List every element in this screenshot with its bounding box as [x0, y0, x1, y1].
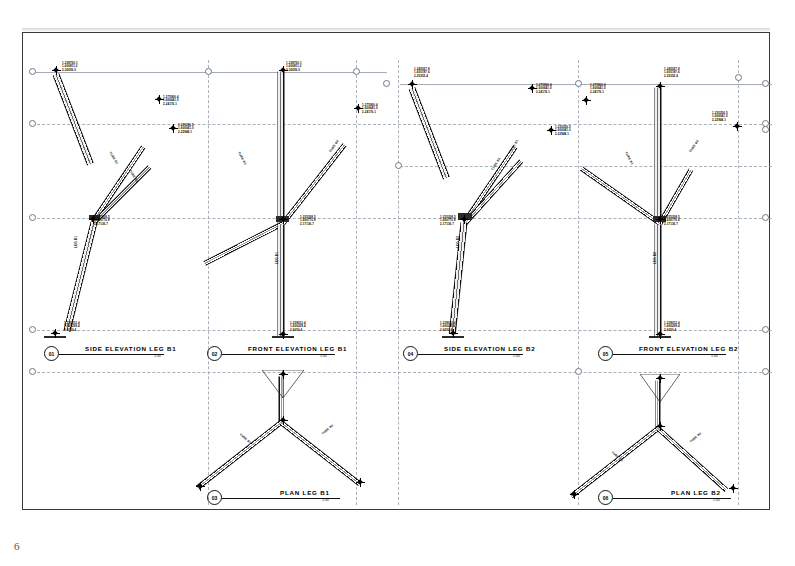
- node-coordinate-label: 1-245027.81-605197.62-25252.4: [664, 68, 680, 78]
- node-coordinate-line: 2-26056.5: [62, 69, 78, 72]
- plan-b1-node-center[interactable]: [279, 416, 288, 425]
- member-dimension-label: LEG B1: [74, 236, 78, 248]
- view-title-rule: [613, 354, 726, 355]
- leg-b2-front-column-upper: [655, 88, 662, 224]
- node-coordinate-label: 1-239012.41-606209.42-6050.4: [64, 322, 80, 332]
- node-coordinate-label: 1-239012.41-606209.42-6050.4: [664, 322, 680, 332]
- node-top[interactable]: [52, 66, 61, 75]
- node-coordinate-label: 1-238750.11-606811.22-26056.5: [62, 62, 78, 72]
- node-coordinate-line: 2-17136.7: [440, 223, 456, 226]
- node-coordinate-line: 2-17136.7: [94, 223, 110, 226]
- node-coordinate-line: 2-24176.1: [163, 103, 179, 106]
- view-title-text: PLAN LEG B1: [280, 489, 330, 496]
- view-title-rule: [59, 354, 164, 355]
- node-coordinate-label: 1-235256.51-606041.02-22948.1: [712, 112, 728, 122]
- node-b2-top[interactable]: [408, 80, 417, 89]
- view-scale-text: 1:50: [322, 498, 329, 502]
- node-coordinate-line: 2-17136.7: [664, 223, 680, 226]
- view-number: 01: [49, 351, 55, 357]
- grid-bubble-left-5[interactable]: [29, 368, 36, 375]
- node-coordinate-line: 2-24176.1: [590, 91, 606, 94]
- grid-bubble-right-4[interactable]: [762, 126, 769, 133]
- member-dimension-label: LEG B1: [275, 252, 279, 264]
- view-scale-text: 1:50: [513, 354, 520, 358]
- node-coordinate-line: 2-6050.4: [290, 329, 306, 332]
- grid-bubble-right-1[interactable]: [735, 74, 742, 81]
- node-b2-front-left-end[interactable]: [582, 96, 591, 105]
- view-scale-text: 1:50: [713, 498, 720, 502]
- grid-bubble-mid-4[interactable]: [395, 162, 402, 169]
- node-coordinate-line: 2-26056.5: [286, 69, 302, 72]
- grid-bubble-right-5[interactable]: [762, 214, 769, 221]
- grid-bubble-left-1[interactable]: [29, 68, 36, 75]
- node-coordinate-line: 2-24176.1: [362, 111, 378, 114]
- grid-bubble-mid-1[interactable]: [205, 68, 212, 75]
- view-scale-text: 1:50: [320, 354, 327, 358]
- view-number: 05: [603, 351, 609, 357]
- gridline-horizontal-right-top: [400, 84, 772, 85]
- leg-b1-front-column-lower: [278, 225, 285, 337]
- node-coordinate-line: 2-22948.1: [555, 133, 571, 136]
- node-coordinate-line: 2-25252.4: [414, 75, 430, 78]
- view-number-bubble[interactable]: 04: [403, 346, 418, 361]
- grid-bubble-right-7[interactable]: [762, 368, 769, 375]
- node-base[interactable]: [51, 329, 60, 338]
- node-coordinate-line: 2-22948.1: [178, 131, 194, 134]
- plan-b1-node-left[interactable]: [196, 482, 205, 491]
- gridline-vertical-2: [356, 60, 357, 505]
- node-coordinate-line: 2-6050.4: [440, 329, 456, 332]
- plan-b2-node-center[interactable]: [656, 422, 665, 431]
- grid-bubble-mid-2[interactable]: [353, 68, 360, 75]
- node-coordinate-label: 1-275900.41-606641.02-24176.1: [362, 104, 378, 114]
- node-coordinate-line: 2-24176.1: [536, 91, 552, 94]
- node-b2-mid-joint[interactable]: [460, 215, 469, 224]
- node-coordinate-label: 1-275900.41-606641.02-24176.1: [536, 84, 552, 94]
- plan-b1-node-right[interactable]: [356, 478, 365, 487]
- grid-bubble-mid-3[interactable]: [383, 80, 390, 87]
- node-coordinate-label: 1-275900.41-606641.02-24176.1: [590, 84, 606, 94]
- node-coordinate-label: 1-238750.11-606811.22-26056.5: [286, 62, 302, 72]
- node-b2-front-top[interactable]: [656, 82, 665, 91]
- view-number-bubble[interactable]: 06: [598, 490, 613, 505]
- leg-b2-front-column-lower: [655, 225, 662, 337]
- node-coordinate-label: 1-235256.51-606041.02-22948.1: [178, 124, 194, 134]
- grid-bubble-mid-5[interactable]: [575, 80, 582, 87]
- node-coordinate-line: 2-17136.7: [300, 223, 316, 226]
- node-coordinate-label: 1-235208.51-606770.82-17136.7: [440, 216, 456, 226]
- view-number-bubble[interactable]: 03: [207, 490, 222, 505]
- view-number: 02: [212, 351, 218, 357]
- leg-b1-front-column-upper: [278, 72, 285, 224]
- view-number: 03: [212, 495, 218, 501]
- grid-bubble-right-2[interactable]: [762, 80, 769, 87]
- grid-bubble-left-3[interactable]: [29, 214, 36, 221]
- view-number-bubble[interactable]: 01: [44, 346, 59, 361]
- node-coordinate-label: 1-239012.41-606209.42-6050.4: [440, 322, 456, 332]
- gridline-vertical-1: [208, 60, 209, 505]
- grid-bubble-left-2[interactable]: [29, 120, 36, 127]
- plan-b1-node-top[interactable]: [279, 370, 288, 379]
- view-number-bubble[interactable]: 02: [207, 346, 222, 361]
- node-front-base[interactable]: [279, 330, 288, 339]
- view-title-rule: [222, 354, 335, 355]
- plan-b2-node-left[interactable]: [570, 490, 579, 499]
- node-front-mid-joint[interactable]: [279, 215, 288, 224]
- view-title-text: SIDE ELEVATION LEG B2: [444, 345, 536, 352]
- plan-b2-node-top[interactable]: [656, 374, 665, 383]
- grid-bubble-right-6[interactable]: [762, 326, 769, 333]
- gridline-vertical-4: [578, 60, 579, 505]
- plan-b2-node-right[interactable]: [729, 484, 738, 493]
- member-dimension-label: LEG B2: [456, 236, 460, 248]
- member-dimension-label: LEG B2: [653, 252, 657, 264]
- node-tube-b2-end[interactable]: [169, 124, 178, 133]
- drawing-sheet: 1-238750.11-606811.22-26056.51-275900.41…: [0, 0, 795, 566]
- node-coordinate-line: 2-6050.4: [664, 329, 680, 332]
- view-title-rule: [418, 354, 523, 355]
- node-coordinate-label: 1-239012.41-606209.42-6050.4: [290, 322, 306, 332]
- grid-bubble-left-4[interactable]: [29, 326, 36, 333]
- grid-bubble-mid-6[interactable]: [575, 368, 582, 375]
- view-scale-text: 1:50: [154, 354, 161, 358]
- node-coordinate-line: 2-25252.4: [664, 75, 680, 78]
- node-b2-front-right-end[interactable]: [733, 122, 742, 131]
- node-coordinate-label: 1-275900.41-606641.02-24176.1: [163, 96, 179, 106]
- view-number-bubble[interactable]: 05: [598, 346, 613, 361]
